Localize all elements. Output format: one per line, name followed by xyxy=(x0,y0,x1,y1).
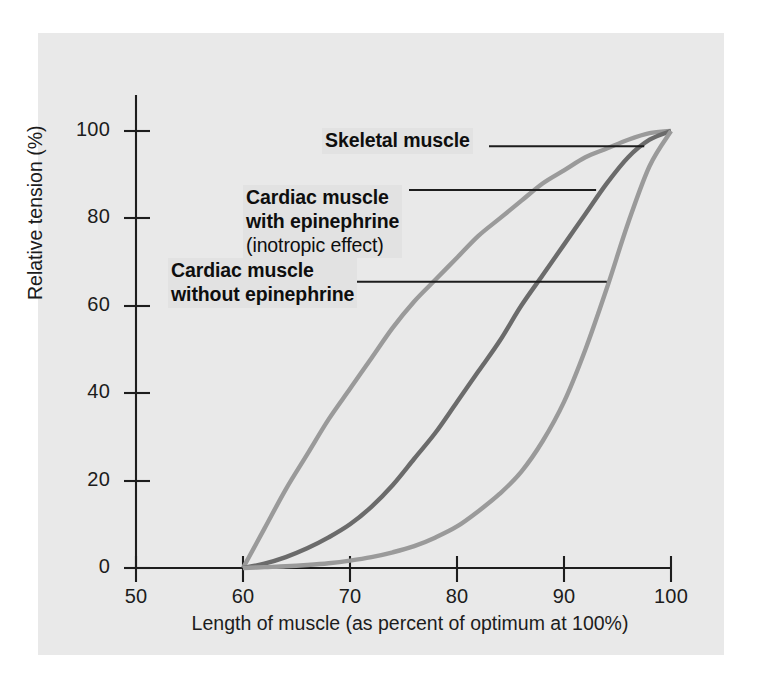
annotation-with-epinephrine-line2: with epinephrine xyxy=(246,210,399,234)
xtick-label-80: 80 xyxy=(427,585,487,608)
annotation-skeletal-muscle: Skeletal muscle xyxy=(322,128,473,154)
annotation-cardiac-with-epinephrine: Cardiac muscle with epinephrine (inotrop… xyxy=(243,185,402,258)
xtick-label-60: 60 xyxy=(213,585,273,608)
y-axis-title: Relative tension (%) xyxy=(24,40,47,300)
annotation-cardiac-without-epinephrine: Cardiac muscle without epinephrine xyxy=(168,258,357,308)
annotation-without-epinephrine-line2: without epinephrine xyxy=(171,283,354,307)
ytick-label-20: 20 xyxy=(58,468,110,491)
annotation-skeletal-line1: Skeletal muscle xyxy=(325,129,470,153)
xtick-label-70: 70 xyxy=(320,585,380,608)
ytick-label-0: 0 xyxy=(58,555,110,578)
figure-page: 100 80 60 40 20 0 50 60 70 80 90 100 Rel… xyxy=(0,0,762,688)
xtick-label-90: 90 xyxy=(534,585,594,608)
xtick-label-100: 100 xyxy=(641,585,701,608)
annotation-with-epinephrine-line1: Cardiac muscle xyxy=(246,186,399,210)
ytick-label-60: 60 xyxy=(58,293,110,316)
ytick-label-100: 100 xyxy=(58,118,110,141)
ytick-label-80: 80 xyxy=(58,205,110,228)
annotation-without-epinephrine-line1: Cardiac muscle xyxy=(171,259,354,283)
ytick-label-40: 40 xyxy=(58,380,110,403)
annotation-with-epinephrine-line3: (inotropic effect) xyxy=(246,234,399,258)
xtick-label-50: 50 xyxy=(106,585,166,608)
x-axis-title: Length of muscle (as percent of optimum … xyxy=(130,612,690,635)
